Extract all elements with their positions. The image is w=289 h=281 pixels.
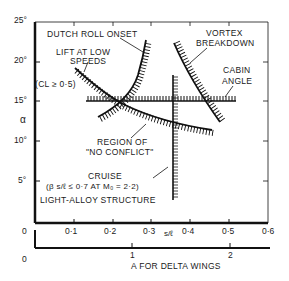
y-tick-5: 5° (18, 175, 26, 185)
x-tick-0.5: 0·5 (222, 226, 234, 236)
x-tick-0.3: 0·3 (143, 226, 155, 236)
y-tick-10: 10° (14, 135, 27, 145)
x-tick-0.6: 0·6 (262, 226, 274, 236)
x-axis-label: s/ℓ (164, 229, 173, 238)
a-tick-2: 2 (228, 250, 233, 260)
y-tick-25: 25° (14, 15, 27, 25)
vortex-breakdown-curve (174, 42, 223, 122)
y-tick-20: 20° (14, 55, 27, 65)
cabin-label-line1: CABIN (223, 66, 250, 75)
x-tick-0.1: 0·1 (65, 226, 77, 236)
cl-condition-label: (CL ≥ 0·5) (35, 80, 76, 89)
dutch-roll-label: DUTCH ROLL ONSET (47, 30, 137, 39)
a-tick-1: 1 (130, 250, 135, 260)
y-axis-symbol: α (20, 114, 26, 125)
cruise-vertical-line (173, 75, 178, 200)
cruise-label-line1: CRUISE (88, 172, 122, 181)
vortex-label-line2: BREAKDOWN (196, 39, 254, 48)
x-tick-0.2: 0·2 (104, 226, 116, 236)
cruise-label-line2: (β s/ℓ ≤ 0·7 AT M₀ = 2·2) (46, 182, 139, 191)
secondary-axis-label: A FOR DELTA WINGS (131, 262, 221, 271)
x-tick-0.4: 0·4 (182, 226, 194, 236)
structure-label: LIGHT-ALLOY STRUCTURE (40, 196, 156, 205)
region-label-line1: REGION OF (97, 138, 147, 147)
lift-label-line2: SPEEDS (70, 57, 106, 66)
y-tick-15: 15° (14, 95, 27, 105)
vortex-label-line1: VORTEX (206, 29, 243, 38)
a-tick-0: 0 (22, 254, 27, 264)
region-label-line2: "NO CONFLICT" (86, 148, 154, 157)
x-tick-0: 0 (22, 226, 27, 236)
cabin-label-line2: ANGLE (222, 77, 252, 86)
